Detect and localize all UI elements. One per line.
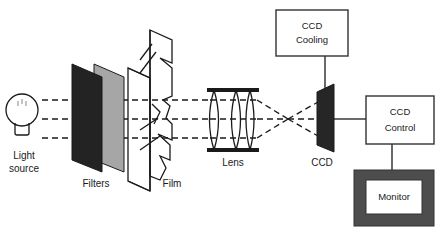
lens-assembly bbox=[207, 88, 259, 152]
film-rear-sheet bbox=[128, 68, 150, 191]
ccd-cooling-label-line1: CCD bbox=[302, 20, 323, 31]
light-bulb-filament-icon bbox=[18, 99, 26, 106]
ccd-control-label-line1: CCD bbox=[390, 106, 411, 117]
ray-bundle-incoming bbox=[42, 100, 212, 138]
optical-system-diagram: Light source Filters Film bbox=[0, 0, 442, 234]
film-crease-b bbox=[140, 52, 156, 73]
ray-converge-top bbox=[257, 100, 288, 119]
filters-label: Filters bbox=[82, 178, 109, 189]
lens-element-1-right bbox=[214, 90, 219, 150]
dark-filter bbox=[72, 64, 102, 172]
ccd-sensor bbox=[317, 84, 334, 152]
monitor-box[interactable]: Monitor bbox=[354, 170, 434, 226]
light-source-label-line2: source bbox=[9, 163, 39, 174]
ccd-control-box-frame[interactable] bbox=[366, 96, 434, 144]
diagram-canvas: Light source Filters Film bbox=[0, 0, 442, 234]
filters-group bbox=[72, 64, 124, 172]
film-label: Film bbox=[163, 178, 182, 189]
film-top-edge bbox=[128, 68, 150, 78]
ray-bundle-converging bbox=[257, 100, 318, 138]
ccd-sensor-group bbox=[317, 84, 334, 152]
ccd-label: CCD bbox=[311, 157, 333, 168]
ccd-control-label-line2: Control bbox=[385, 122, 416, 133]
ccd-cooling-label-line2: Cooling bbox=[296, 34, 328, 45]
lens-element-3-right bbox=[250, 90, 254, 150]
lens-element-2-right bbox=[236, 90, 241, 150]
lens-element-3-left bbox=[246, 90, 250, 150]
ray-diverge-top bbox=[288, 102, 318, 119]
ray-diverge-bottom bbox=[288, 119, 318, 136]
light-bulb-icon bbox=[6, 94, 38, 126]
light-source-label-line1: Light bbox=[13, 150, 35, 161]
lens-element-1-left bbox=[210, 90, 215, 150]
film-group bbox=[128, 30, 172, 191]
lens-label: Lens bbox=[222, 157, 244, 168]
lens-element-2-left bbox=[232, 90, 237, 150]
light-source bbox=[6, 94, 38, 135]
ccd-cooling-box[interactable]: CCD Cooling bbox=[276, 10, 348, 56]
film-crease-d bbox=[140, 118, 158, 130]
monitor-label: Monitor bbox=[378, 191, 410, 202]
film-bottom-edge bbox=[128, 181, 150, 191]
ccd-control-box[interactable]: CCD Control bbox=[366, 96, 434, 144]
ray-converge-bottom bbox=[257, 119, 288, 138]
